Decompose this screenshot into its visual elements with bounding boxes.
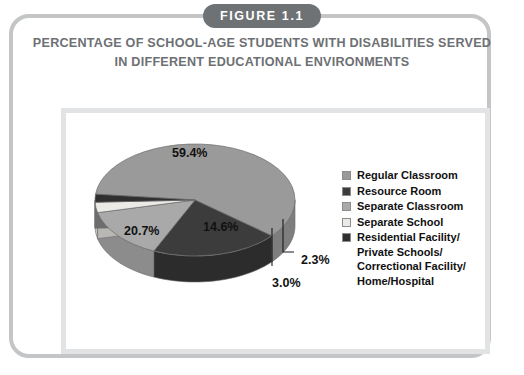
legend-item-label: Regular Classroom [357, 168, 458, 183]
legend-swatch-icon [342, 218, 351, 227]
legend-swatch-icon [342, 202, 351, 211]
legend-item-label: Resource Room [357, 184, 441, 199]
legend-item-label: Separate School [357, 215, 443, 230]
legend-item-regular-classroom[interactable]: Regular Classroom [342, 168, 482, 183]
legend-item-label: Residential Facility/ Private Schools/ C… [357, 230, 466, 288]
legend-item-separate-classroom[interactable]: Separate Classroom [342, 199, 482, 214]
pie-slice-label-0: 59.4% [172, 146, 207, 160]
chart-legend: Regular Classroom Resource Room Separate… [342, 168, 482, 289]
legend-item-label: Separate Classroom [357, 199, 463, 214]
legend-item-separate-school[interactable]: Separate School [342, 215, 482, 230]
figure-badge: FIGURE 1.1 [203, 4, 321, 28]
pie-slice-label-2: 14.6% [203, 220, 238, 234]
legend-swatch-icon [342, 187, 351, 196]
figure-title-line-1: PERCENTAGE OF SCHOOL-AGE STUDENTS WITH D… [28, 34, 496, 53]
pie-slice-label-1: 20.7% [124, 224, 159, 238]
figure-title-line-2: IN DIFFERENT EDUCATIONAL ENVIRONMENTS [28, 53, 496, 72]
pie-slice-label-4: 2.3% [301, 253, 330, 267]
legend-swatch-icon [342, 171, 351, 180]
figure-title: PERCENTAGE OF SCHOOL-AGE STUDENTS WITH D… [28, 34, 496, 72]
legend-item-resource-room[interactable]: Resource Room [342, 184, 482, 199]
legend-item-residential-facility[interactable]: Residential Facility/ Private Schools/ C… [342, 230, 482, 288]
legend-swatch-icon [342, 233, 351, 242]
pie-slice-label-3: 3.0% [272, 276, 301, 290]
